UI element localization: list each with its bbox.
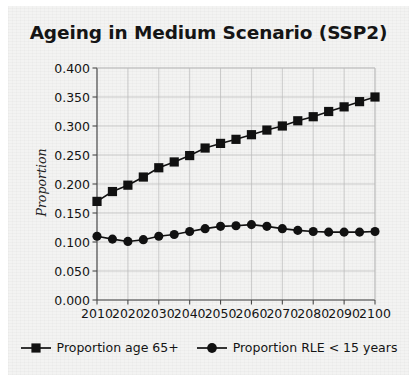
data-point-marker (247, 130, 256, 139)
legend-item-1[interactable]: Proportion age 65+ (20, 340, 179, 355)
data-point-marker (108, 187, 117, 196)
data-point-marker (201, 143, 210, 152)
x-tick-label: 2100 (345, 306, 405, 321)
data-point-marker (92, 232, 101, 241)
data-point-marker (123, 237, 132, 246)
data-point-marker (139, 172, 148, 181)
data-point-marker (355, 228, 364, 237)
legend-item-label: Proportion RLE < 15 years (233, 340, 398, 355)
legend-circle-marker-icon (196, 341, 228, 355)
data-point-marker (309, 227, 318, 236)
data-point-marker (185, 151, 194, 160)
axis-tick-marks (93, 68, 376, 305)
data-point-marker (340, 102, 349, 111)
data-point-marker (231, 135, 240, 144)
data-point-marker (293, 116, 302, 125)
data-point-marker (370, 227, 379, 236)
legend-item-label: Proportion age 65+ (57, 340, 179, 355)
data-point-marker (231, 221, 240, 230)
data-point-marker (262, 222, 271, 231)
data-point-marker (309, 112, 318, 121)
data-point-marker (370, 92, 379, 101)
data-point-marker (154, 232, 163, 241)
plot-area (0, 0, 417, 391)
data-point-marker (170, 157, 179, 166)
data-point-marker (293, 226, 302, 235)
series-1 (92, 92, 379, 206)
legend-marker (31, 343, 40, 352)
data-point-marker (340, 228, 349, 237)
legend-marker (207, 343, 217, 353)
series-line (97, 97, 375, 201)
data-point-marker (123, 181, 132, 190)
legend-square-marker-icon (20, 341, 52, 355)
data-series-layer (92, 92, 379, 246)
data-point-marker (139, 235, 148, 244)
data-point-marker (201, 224, 210, 233)
data-point-marker (324, 228, 333, 237)
data-point-marker (185, 227, 194, 236)
data-point-marker (92, 197, 101, 206)
data-point-marker (324, 107, 333, 116)
data-point-marker (278, 224, 287, 233)
data-point-marker (216, 222, 225, 231)
data-point-marker (154, 163, 163, 172)
chart-figure: Ageing in Medium Scenario (SSP2) Proport… (0, 0, 417, 391)
data-point-marker (216, 139, 225, 148)
legend-item-2[interactable]: Proportion RLE < 15 years (196, 340, 398, 355)
data-point-marker (262, 125, 271, 134)
data-point-marker (247, 220, 256, 229)
data-point-marker (170, 230, 179, 239)
data-point-marker (108, 235, 117, 244)
data-point-marker (355, 97, 364, 106)
data-point-marker (278, 121, 287, 130)
gridlines (97, 68, 375, 300)
x-axis-tick-labels: 2010202020302040205020602070208020902100 (0, 306, 417, 328)
chart-legend: Proportion age 65+Proportion RLE < 15 ye… (0, 340, 417, 355)
